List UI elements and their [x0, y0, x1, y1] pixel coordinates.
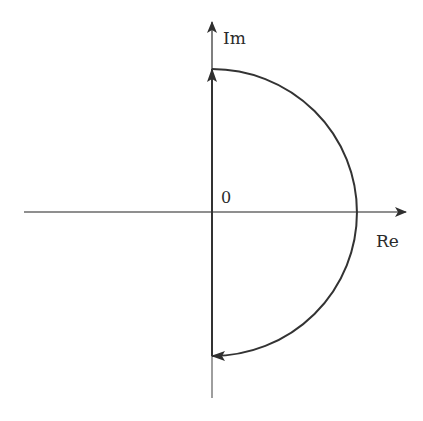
imag-axis-label: Im — [223, 28, 246, 48]
origin-label: 0 — [221, 188, 231, 207]
nyquist-diagram: Im Re 0 — [0, 0, 423, 421]
real-axis-label: Re — [376, 231, 399, 251]
